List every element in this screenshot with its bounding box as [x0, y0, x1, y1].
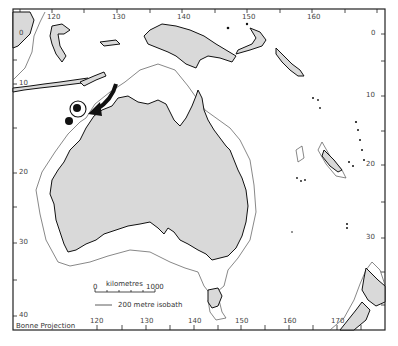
left-lat-label: 10 [19, 80, 28, 87]
top-lon-label: 150 [242, 14, 255, 21]
bottom-lon-label: 170 [331, 318, 344, 325]
right-lat-label: 10 [366, 92, 375, 99]
top-lon-label: 130 [112, 14, 125, 21]
left-lat-label: 30 [19, 239, 28, 246]
projection-label: Bonne Projection [16, 322, 75, 330]
top-lon-label: 160 [307, 14, 320, 21]
circled-site-dot [73, 104, 81, 112]
top-lon-label: 120 [47, 14, 60, 21]
bottom-lon-label: 130 [140, 318, 153, 325]
left-lat-label: 0 [19, 30, 23, 37]
scale-start: 0 [93, 283, 97, 291]
right-lat-label: 20 [366, 161, 375, 168]
bottom-lon-label: 120 [90, 318, 103, 325]
isobath-legend-label: 200 metre isobath [118, 301, 183, 309]
bottom-lon-label: 160 [283, 318, 296, 325]
bottom-lon-label: 150 [235, 318, 248, 325]
right-lat-label: 0 [371, 30, 375, 37]
top-lon-label: 140 [177, 14, 190, 21]
left-lat-label: 40 [19, 312, 28, 319]
right-lat-label: 30 [366, 234, 375, 241]
left-lat-label: 20 [19, 169, 28, 176]
map-canvas [0, 0, 398, 346]
scale-end: 1000 [146, 283, 164, 291]
solid-site-marker [65, 117, 73, 125]
scale-title: kilometres [106, 280, 143, 288]
bottom-lon-label: 140 [188, 318, 201, 325]
